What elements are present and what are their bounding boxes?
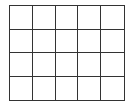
grid-cell bbox=[56, 6, 79, 30]
grid-cell bbox=[56, 53, 79, 77]
grid-cell bbox=[33, 30, 56, 54]
grid-cell bbox=[10, 30, 33, 54]
grid-cell bbox=[78, 30, 101, 54]
grid-cell bbox=[78, 6, 101, 30]
grid-cell bbox=[33, 6, 56, 30]
grid-cell bbox=[101, 6, 124, 30]
grid-cell bbox=[78, 53, 101, 77]
grid-cell bbox=[33, 77, 56, 101]
empty-grid bbox=[9, 5, 125, 101]
grid-cell bbox=[10, 6, 33, 30]
grid-cell bbox=[56, 30, 79, 54]
grid-cell bbox=[33, 53, 56, 77]
grid-cell bbox=[101, 77, 124, 101]
grid-cell bbox=[10, 53, 33, 77]
grid-cell bbox=[101, 30, 124, 54]
grid-cell bbox=[10, 77, 33, 101]
grid-cell bbox=[56, 77, 79, 101]
grid-cell bbox=[78, 77, 101, 101]
grid-cell bbox=[101, 53, 124, 77]
